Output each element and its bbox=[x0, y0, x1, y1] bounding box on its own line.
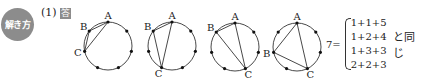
vertex-dot bbox=[147, 50, 150, 53]
case-line: 1+2+4 bbox=[351, 30, 387, 44]
vertex-dot bbox=[223, 67, 226, 70]
vertex-dot bbox=[210, 51, 213, 54]
vertex-dot bbox=[130, 50, 133, 53]
case-line: 1+1+5 bbox=[351, 16, 387, 30]
triangle-abc bbox=[274, 23, 308, 69]
vertex-dot bbox=[125, 29, 128, 32]
label-a: A bbox=[292, 11, 301, 22]
vertex-dot bbox=[233, 21, 236, 24]
vertex-dot bbox=[285, 67, 288, 70]
vertex-dot bbox=[152, 29, 155, 32]
case-line: 1+3+3 bbox=[351, 44, 387, 58]
circle-outline bbox=[148, 22, 196, 70]
vertex-dot bbox=[252, 30, 255, 33]
vertex-dot bbox=[194, 50, 197, 53]
label-a: A bbox=[103, 10, 112, 21]
vertex-dot bbox=[215, 30, 218, 33]
vertex-dot bbox=[257, 51, 260, 54]
label-a: A bbox=[167, 10, 176, 21]
vertex-dot bbox=[170, 20, 173, 23]
vertex-dot bbox=[83, 50, 86, 53]
equation-lhs: 7= bbox=[326, 39, 341, 50]
vertex-dot bbox=[314, 30, 317, 33]
vertex-dot bbox=[319, 51, 322, 54]
circle-outline bbox=[211, 23, 259, 71]
equation: 7= 1+1+5 1+2+4 1+3+3 2+2+3 と同じ bbox=[326, 12, 422, 76]
vertex-dot bbox=[272, 51, 275, 54]
vertex-dot bbox=[106, 20, 109, 23]
case-line: 2+2+3 bbox=[351, 58, 387, 72]
vertex-dot bbox=[277, 30, 280, 33]
vertex-dot bbox=[295, 21, 298, 24]
label-b: B bbox=[263, 48, 270, 59]
label-a: A bbox=[230, 11, 239, 22]
vertex-dot bbox=[96, 66, 99, 69]
label-c: C bbox=[245, 69, 253, 80]
triangle-abc bbox=[153, 22, 172, 68]
label-c: C bbox=[307, 69, 315, 80]
triangle-abc bbox=[216, 23, 245, 69]
triangle-abc bbox=[85, 22, 108, 51]
label-c: C bbox=[74, 47, 82, 58]
circle-outline bbox=[84, 22, 132, 70]
vertex-dot bbox=[117, 66, 120, 69]
vertex-dot bbox=[88, 29, 91, 32]
label-b: B bbox=[80, 21, 87, 32]
vertex-dot bbox=[181, 66, 184, 69]
cases-brace: 1+1+5 1+2+4 1+3+3 2+2+3 bbox=[343, 16, 387, 72]
label-c: C bbox=[155, 68, 163, 79]
label-b: B bbox=[207, 22, 214, 33]
label-b: B bbox=[144, 21, 151, 32]
vertex-dot bbox=[189, 29, 192, 32]
equation-suffix: と同じ bbox=[393, 28, 422, 60]
